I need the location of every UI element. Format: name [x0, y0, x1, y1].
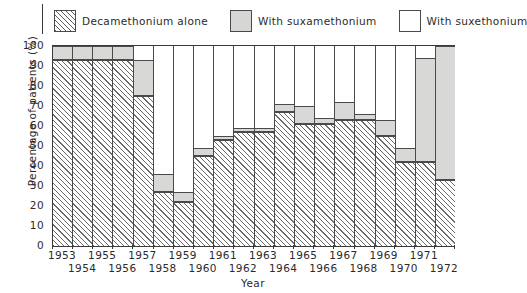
segment-suxamethonium [416, 58, 435, 162]
segment-suxethonium [376, 46, 395, 120]
chart-legend: Decamethonium alone With suxamethonium W… [42, 6, 462, 36]
segment-decamethonium [154, 192, 173, 246]
segment-decamethonium [315, 124, 334, 246]
bar-1958[interactable] [154, 46, 174, 246]
segment-suxamethonium [134, 60, 153, 96]
x-tick-label-1966: 1966 [309, 262, 337, 274]
segment-decamethonium [355, 120, 374, 246]
x-tick-label-1955: 1955 [88, 249, 116, 261]
y-tick-label: 30 [30, 180, 44, 191]
bar-1963[interactable] [255, 46, 275, 246]
x-tick-label-1967: 1967 [329, 249, 357, 261]
segment-suxamethonium [174, 192, 193, 202]
segment-decamethonium [73, 60, 92, 246]
x-tick-label-1972: 1972 [430, 262, 458, 274]
bar-1969[interactable] [376, 46, 396, 246]
bar-1966[interactable] [315, 46, 335, 246]
segment-suxethonium [174, 46, 193, 192]
x-tick-label-1953: 1953 [48, 249, 76, 261]
bar-1955[interactable] [93, 46, 113, 246]
segment-decamethonium [436, 180, 455, 246]
bar-1968[interactable] [355, 46, 375, 246]
bar-1953[interactable] [53, 46, 73, 246]
y-tick-label: 100 [23, 40, 44, 51]
segment-suxethonium [416, 46, 435, 58]
segment-decamethonium [194, 156, 213, 246]
segment-decamethonium [335, 120, 354, 246]
bar-1960[interactable] [194, 46, 214, 246]
segment-suxamethonium [154, 174, 173, 192]
x-tick-label-1970: 1970 [390, 262, 418, 274]
x-tick-label-1954: 1954 [68, 262, 96, 274]
segment-decamethonium [53, 60, 72, 246]
y-tick-label: 60 [30, 120, 44, 131]
bar-1956[interactable] [113, 46, 133, 246]
x-tick-label-1956: 1956 [108, 262, 136, 274]
segment-suxethonium [194, 46, 213, 148]
segment-decamethonium [93, 60, 112, 246]
segment-suxethonium [355, 46, 374, 114]
segment-suxamethonium [376, 120, 395, 136]
gray-swatch-icon [230, 10, 252, 32]
legend-label-decamethonium: Decamethonium alone [82, 15, 208, 27]
bar-1964[interactable] [275, 46, 295, 246]
segment-decamethonium [234, 132, 253, 246]
bar-1962[interactable] [234, 46, 254, 246]
y-tick-label: 40 [30, 160, 44, 171]
x-tick-label-1958: 1958 [148, 262, 176, 274]
segment-suxamethonium [113, 46, 132, 60]
stacked-bars-container [53, 46, 455, 246]
bar-1961[interactable] [214, 46, 234, 246]
segment-suxethonium [154, 46, 173, 174]
x-tick-label-1957: 1957 [128, 249, 156, 261]
segment-suxethonium [295, 46, 314, 106]
bar-1954[interactable] [73, 46, 93, 246]
segment-suxethonium [335, 46, 354, 102]
segment-suxethonium [315, 46, 334, 118]
segment-suxamethonium [436, 46, 455, 180]
legend-label-suxamethonium: With suxamethonium [258, 15, 377, 27]
bar-1959[interactable] [174, 46, 194, 246]
x-tick-label-1961: 1961 [209, 249, 237, 261]
y-axis-tick-labels: 0102030405060708090100 [16, 38, 48, 252]
x-tick-label-1971: 1971 [410, 249, 438, 261]
y-tick-label: 50 [30, 140, 44, 151]
bar-1972[interactable] [436, 46, 455, 246]
segment-suxethonium [275, 46, 294, 104]
segment-suxethonium [255, 46, 274, 128]
legend-item-decamethonium: Decamethonium alone [54, 10, 208, 32]
white-swatch-icon [399, 10, 421, 32]
segment-suxamethonium [295, 106, 314, 124]
segment-suxamethonium [275, 104, 294, 112]
x-tick-label-1964: 1964 [269, 262, 297, 274]
segment-decamethonium [295, 124, 314, 246]
x-tick-label-1962: 1962 [229, 262, 257, 274]
segment-suxamethonium [396, 148, 415, 162]
segment-suxethonium [214, 46, 233, 136]
bar-1967[interactable] [335, 46, 355, 246]
x-tick-label-1969: 1969 [369, 249, 397, 261]
segment-decamethonium [214, 140, 233, 246]
bar-1970[interactable] [396, 46, 416, 246]
x-tick-label-1963: 1963 [249, 249, 277, 261]
legend-label-suxethonium: With suxethonium [427, 15, 527, 27]
hatch-swatch-icon [54, 10, 76, 32]
segment-decamethonium [396, 162, 415, 246]
segment-suxethonium [234, 46, 253, 128]
plot-area [52, 45, 455, 247]
x-tick-label-1959: 1959 [168, 249, 196, 261]
legend-item-suxethonium: With suxethonium [399, 10, 527, 32]
segment-decamethonium [134, 96, 153, 246]
segment-suxamethonium [73, 46, 92, 60]
bar-1957[interactable] [134, 46, 154, 246]
y-tick-label: 20 [30, 200, 44, 211]
segment-suxethonium [134, 46, 153, 60]
x-axis-tick-labels: 1953195419551956195719581959196019611962… [0, 249, 467, 279]
bar-1971[interactable] [416, 46, 436, 246]
bar-1965[interactable] [295, 46, 315, 246]
segment-suxamethonium [335, 102, 354, 120]
segment-decamethonium [113, 60, 132, 246]
segment-suxethonium [396, 46, 415, 148]
y-tick-label: 10 [30, 220, 44, 231]
x-axis-title: Year [52, 277, 454, 289]
